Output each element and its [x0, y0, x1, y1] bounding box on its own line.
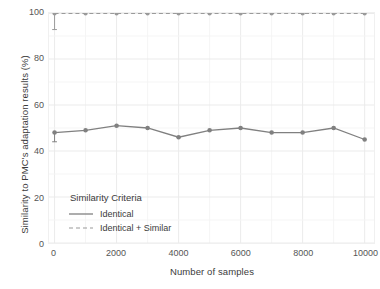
y-tick-label-20: 20	[4, 193, 44, 203]
legend-item-identical[interactable]: Identical	[68, 207, 171, 221]
y-tick-label-40: 40	[4, 146, 44, 156]
x-tick-label-10000: 10000	[336, 248, 380, 258]
x-tick-label-8000: 8000	[273, 248, 333, 258]
legend-key-dashed-line-icon	[68, 222, 94, 234]
x-tick-label-0: 0	[24, 248, 84, 258]
y-tick-label-60: 60	[4, 100, 44, 110]
y-tick-label-100: 100	[4, 7, 44, 17]
x-axis-title: Number of samples	[48, 266, 376, 277]
x-tick-label-4000: 4000	[148, 248, 208, 258]
x-tick-label-2000: 2000	[86, 248, 146, 258]
legend-item-identical-plus-similar[interactable]: Identical + Similar	[68, 221, 171, 235]
legend-label-identical: Identical	[100, 209, 134, 219]
x-tick-label-6000: 6000	[211, 248, 271, 258]
chart-legend: Similarity Criteria Identical Identical …	[68, 192, 171, 235]
legend-key-solid-line-icon	[68, 208, 94, 220]
legend-label-identical-plus-similar: Identical + Similar	[100, 223, 171, 233]
chart-container: Similarity to PMC's adaptation results (…	[0, 0, 380, 289]
legend-title: Similarity Criteria	[70, 192, 171, 203]
y-tick-label-80: 80	[4, 53, 44, 63]
